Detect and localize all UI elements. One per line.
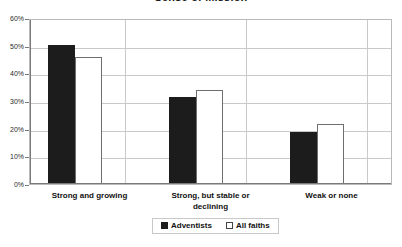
x-category-label-weak-or-none: Weak or none [271, 190, 392, 201]
y-tick-label-40: 40% [0, 70, 24, 77]
x-category-label-strong-and-growing: Strong and growing [29, 190, 150, 201]
legend-label-adventists: Adventists [171, 221, 212, 230]
category-separator-3 [367, 20, 368, 184]
bar-adventists-weak-or-none [290, 132, 317, 184]
bar-adventists-strong-and-growing [48, 45, 75, 184]
bar-chart: Sense of Mission 60% 50% 40% 30% 20% 10%… [0, 0, 402, 247]
bar-adventists-strong-but-stable-or-declining [169, 97, 196, 184]
x-category-label-line: Weak or none [271, 190, 392, 201]
y-axis-line [30, 20, 31, 184]
y-tick-mark-0 [25, 185, 29, 186]
gridline-50 [30, 48, 391, 49]
x-category-label-line: Strong, but stable or [150, 190, 271, 201]
x-category-label-line: declining [150, 201, 271, 212]
category-separator-1 [125, 20, 126, 184]
y-tick-label-0: 0% [0, 181, 24, 188]
bar-all-faiths-strong-and-growing [75, 57, 102, 184]
y-tick-label-50: 50% [0, 43, 24, 50]
x-axis-line [30, 183, 391, 184]
y-tick-label-60: 60% [0, 15, 24, 22]
legend-label-all-faiths: All faiths [236, 221, 270, 230]
y-tick-label-10: 10% [0, 153, 24, 160]
bar-all-faiths-weak-or-none [317, 124, 344, 184]
filled-square-icon [161, 222, 168, 229]
plot-area [29, 19, 392, 185]
x-category-label-strong-but-stable-or-declining: Strong, but stable or declining [150, 190, 271, 212]
chart-title: Sense of Mission [0, 0, 402, 3]
legend-item-adventists: Adventists [161, 221, 212, 230]
legend-item-all-faiths: All faiths [226, 221, 270, 230]
empty-square-icon [226, 222, 233, 229]
category-separator-2 [246, 20, 247, 184]
bar-all-faiths-strong-but-stable-or-declining [196, 90, 223, 184]
y-tick-label-30: 30% [0, 98, 24, 105]
y-tick-label-20: 20% [0, 126, 24, 133]
x-category-label-line: Strong and growing [29, 190, 150, 201]
chart-legend: Adventists All faiths [152, 218, 279, 234]
